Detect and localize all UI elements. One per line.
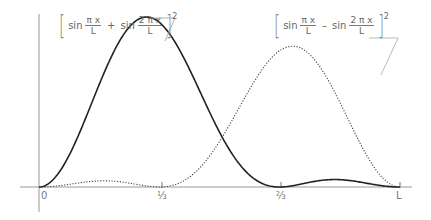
right-bracket: ] <box>166 12 172 38</box>
minus-operator: – <box>322 20 327 31</box>
tick-label-two-thirds: ⅔ <box>276 190 286 201</box>
exponent: 2 <box>172 12 177 21</box>
denominator: L <box>91 26 96 36</box>
sum-squared-curve <box>39 17 400 187</box>
sin-fn-2: sin <box>120 20 134 31</box>
numerator: π x <box>85 15 101 26</box>
fraction-2: 2 π x L <box>138 15 162 36</box>
formula-label-difference: [ sin π x L – sin 2 π x L ] 2 <box>272 12 389 38</box>
right-bracket: ] <box>378 12 384 38</box>
leader-line-difference <box>369 38 398 75</box>
denominator: L <box>147 26 152 36</box>
difference-squared-curve <box>39 46 400 187</box>
left-bracket: [ <box>59 12 65 38</box>
tick-label-0: 0 <box>41 190 47 201</box>
tick-label-third: ⅓ <box>157 190 167 201</box>
plus-operator: + <box>107 20 115 31</box>
fraction-1: π x L <box>85 15 101 36</box>
left-bracket: [ <box>274 12 280 38</box>
formula-label-sum: [ sin π x L + sin 2 π x L ] 2 <box>57 12 177 38</box>
sin-fn-1: sin <box>68 20 82 31</box>
tick-label-L: L <box>396 190 402 201</box>
numerator: 2 π x <box>349 15 373 26</box>
numerator: 2 π x <box>138 15 162 26</box>
numerator: π x <box>300 15 316 26</box>
sin-fn-1: sin <box>283 20 297 31</box>
exponent: 2 <box>384 12 389 21</box>
fraction-1: π x L <box>300 15 316 36</box>
sin-fn-2: sin <box>332 20 346 31</box>
denominator: L <box>359 26 364 36</box>
denominator: L <box>306 26 311 36</box>
fraction-2: 2 π x L <box>349 15 373 36</box>
